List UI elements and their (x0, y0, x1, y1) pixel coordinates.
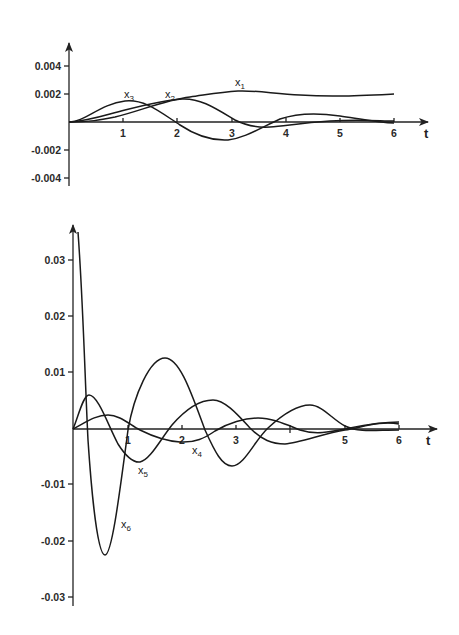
bottom-x-tick-label: 3 (233, 434, 239, 446)
top-y-tick-label: 0.004 (35, 60, 61, 72)
top-x-tick-label: 3 (229, 127, 235, 139)
bottom-y-tick-label: 0.02 (45, 310, 66, 322)
curve-x2 (69, 99, 394, 127)
top-chart: 0.004 0.002 -0.002 -0.004 1 2 3 4 5 6 t … (31, 43, 429, 186)
label-x4: x4 (192, 444, 203, 459)
top-y-tick-label: -0.002 (31, 144, 61, 156)
top-y-ticks: 0.004 0.002 -0.002 -0.004 (31, 60, 69, 184)
label-x5: x5 (138, 464, 149, 479)
bottom-y-tick-label: -0.01 (41, 478, 65, 490)
curve-x6 (78, 232, 399, 555)
bottom-x-tick-label: 2 (179, 434, 185, 446)
top-x-tick-label: 6 (391, 127, 397, 139)
bottom-y-tick-label: -0.02 (41, 535, 65, 547)
bottom-y-tick-label: -0.03 (41, 591, 65, 603)
top-x-tick-label: 4 (283, 127, 289, 139)
bottom-x-tick-label: 6 (396, 434, 402, 446)
bottom-y-tick-label: 0.03 (45, 254, 66, 266)
top-x-tick-label: 1 (120, 127, 126, 139)
bottom-t-axis-label: t (426, 433, 431, 448)
top-y-tick-label: 0.002 (35, 88, 61, 100)
top-t-axis-label: t (424, 126, 429, 141)
top-x-tick-label: 5 (337, 127, 343, 139)
top-y-tick-label: -0.004 (31, 172, 61, 184)
bottom-y-ticks: 0.03 0.02 0.01 -0.01 -0.02 -0.03 (41, 254, 73, 603)
label-x1: x1 (235, 76, 246, 91)
figure: 0.004 0.002 -0.002 -0.004 1 2 3 4 5 6 t … (0, 0, 459, 635)
bottom-y-tick-label: 0.01 (45, 366, 66, 378)
label-x6: x6 (121, 518, 132, 533)
top-x-tick-label: 2 (174, 127, 180, 139)
bottom-chart: 0.03 0.02 0.01 -0.01 -0.02 -0.03 1 2 3 5… (41, 225, 437, 606)
bottom-x-tick-label: 5 (342, 434, 348, 446)
